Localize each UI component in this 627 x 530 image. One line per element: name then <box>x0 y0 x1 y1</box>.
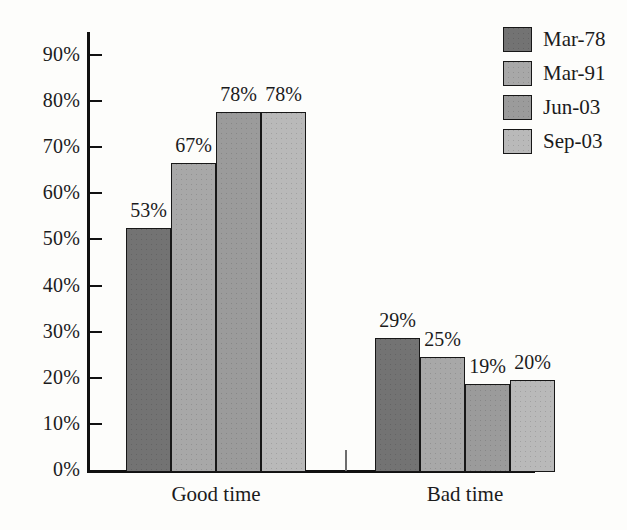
x-axis-category-label: Bad time <box>385 482 545 506</box>
bar[interactable] <box>216 112 261 472</box>
legend-item-label: Mar-91 <box>543 62 606 84</box>
bar-value-label: 78% <box>255 84 312 104</box>
plot-area: 53%67%78%78%29%25%19%20% <box>87 32 535 472</box>
legend-item-label: Mar-78 <box>543 28 606 50</box>
legend-swatch-icon <box>503 129 532 154</box>
legend-swatch-icon <box>503 27 532 52</box>
y-axis-tick-label: 60% <box>14 182 80 202</box>
bar[interactable] <box>126 228 171 472</box>
legend-item[interactable]: Mar-78 <box>503 22 627 56</box>
y-axis-tick-label: 40% <box>14 275 80 295</box>
legend-item[interactable]: Sep-03 <box>503 124 627 158</box>
legend-swatch-icon <box>503 95 532 120</box>
y-axis-tick-label: 10% <box>14 413 80 433</box>
y-axis-tick-label: 50% <box>14 228 80 248</box>
y-axis-tick-label: 20% <box>14 367 80 387</box>
y-axis-tick-label: 90% <box>14 44 80 64</box>
legend-swatch-icon <box>503 61 532 86</box>
bar-value-label: 20% <box>504 352 561 372</box>
bar-value-label: 67% <box>165 135 222 155</box>
bar[interactable] <box>510 380 555 472</box>
legend-item[interactable]: Jun-03 <box>503 90 627 124</box>
legend: Mar-78Mar-91Jun-03Sep-03 <box>503 22 627 158</box>
legend-item-label: Jun-03 <box>543 96 600 118</box>
y-axis-tick-label: 80% <box>14 90 80 110</box>
chart-canvas: 0%10%20%30%40%50%60%70%80%90% 53%67%78%7… <box>0 0 627 530</box>
y-axis-tick-label: 0% <box>14 459 80 479</box>
bar[interactable] <box>261 112 306 472</box>
y-axis-tick-label: 70% <box>14 136 80 156</box>
bar[interactable] <box>171 163 216 472</box>
bar[interactable] <box>375 338 420 472</box>
y-axis-tick-label: 30% <box>14 321 80 341</box>
bar-value-label: 53% <box>120 200 177 220</box>
bar[interactable] <box>465 384 510 472</box>
bar-value-label: 29% <box>369 310 426 330</box>
x-axis-category-label: Good time <box>136 482 296 506</box>
legend-item[interactable]: Mar-91 <box>503 56 627 90</box>
bar-value-label: 25% <box>414 329 471 349</box>
legend-item-label: Sep-03 <box>543 130 603 152</box>
